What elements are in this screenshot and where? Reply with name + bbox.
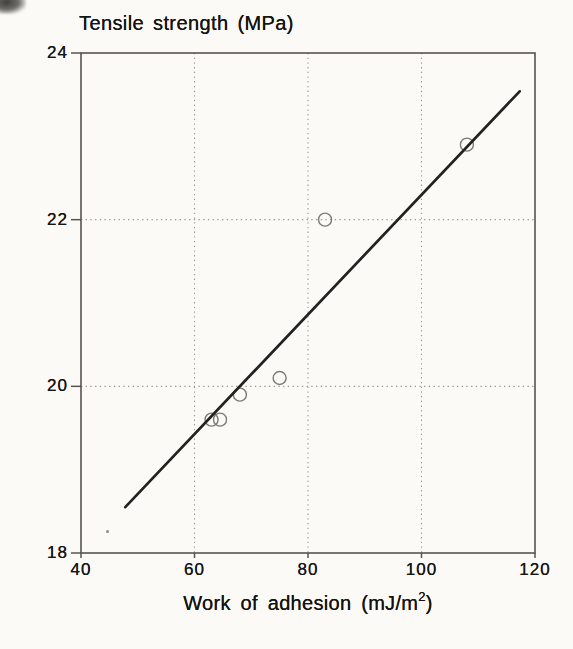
x-axis-label-text: Work of adhesion (mJ/m [183,592,418,614]
scatter-plot-figure: Tensile strength (MPa) 18202224 40608010… [0,0,573,649]
data-point-4 [319,213,332,226]
x-axis-label-suffix: ) [426,592,433,614]
x-tick-label-80: 80 [298,560,319,580]
x-tick-label-60: 60 [184,560,205,580]
y-tick-label-24: 24 [26,43,68,63]
x-axis-label-superscript: 2 [418,589,426,604]
fit-line [125,91,519,507]
data-point-1 [214,413,227,426]
plot-area [0,0,573,649]
data-point-5 [460,138,473,151]
x-tick-label-120: 120 [519,560,550,580]
y-tick-label-22: 22 [26,209,68,229]
y-tick-label-20: 20 [26,376,68,396]
data-point-3 [273,372,286,385]
x-tick-label-100: 100 [406,560,437,580]
x-axis-label: Work of adhesion (mJ/m2) [81,592,535,615]
y-tick-label-18: 18 [26,543,68,563]
x-tick-label-40: 40 [71,560,92,580]
